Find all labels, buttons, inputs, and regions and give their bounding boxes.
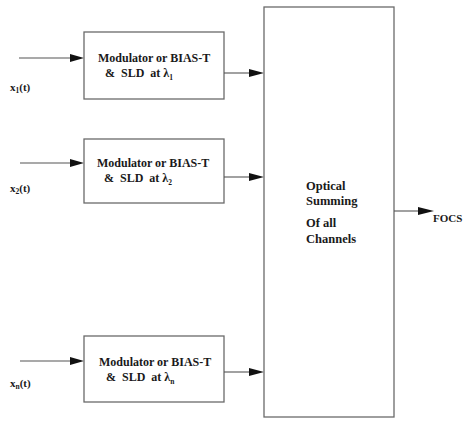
input-1-label: x1(t) (10, 81, 31, 95)
channel-2: x2(t) Modulator or BIAS-T & SLD at λ2 (10, 139, 264, 203)
summing-line-3: Of all (306, 216, 337, 230)
input-n-label: xn(t) (10, 377, 31, 391)
block-diagram: x1(t) Modulator or BIAS-T & SLD at λ1 x2… (0, 0, 473, 424)
modulator-block-n-line1: Modulator or BIAS-T (99, 355, 211, 369)
input-n-arrowhead-icon (70, 357, 84, 365)
channel-n: xn(t) Modulator or BIAS-T & SLD at λn (10, 336, 264, 402)
block-n-arrowhead-icon (249, 368, 264, 376)
output-arrowhead-icon (418, 207, 434, 215)
summing-line-1: Optical (306, 179, 346, 193)
output: FOCS (394, 207, 462, 224)
input-1-arrowhead-icon (70, 54, 84, 62)
modulator-block-n-line2: & SLD at λn (106, 370, 175, 386)
optical-summing-block-group: Optical Summing Of all Channels (264, 7, 394, 417)
modulator-block-2-line2: & SLD at λ2 (104, 171, 172, 187)
modulator-block-1-line2: & SLD at λ1 (105, 66, 173, 82)
output-label-focs: FOCS (433, 212, 462, 224)
input-2-arrowhead-icon (70, 159, 84, 167)
channel-1: x1(t) Modulator or BIAS-T & SLD at λ1 (10, 32, 264, 99)
optical-summing-block (264, 7, 394, 417)
input-2-label: x2(t) (10, 182, 31, 196)
modulator-block-2-line1: Modulator or BIAS-T (97, 156, 209, 170)
modulator-block-n (84, 336, 224, 402)
summing-line-4: Channels (306, 232, 356, 246)
block-2-arrowhead-icon (249, 173, 264, 181)
summing-line-2: Summing (306, 194, 358, 208)
block-1-arrowhead-icon (249, 69, 264, 77)
modulator-block-1-line1: Modulator or BIAS-T (98, 51, 210, 65)
